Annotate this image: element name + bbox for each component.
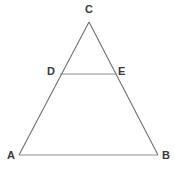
- triangle-diagram: [0, 0, 175, 175]
- vertex-label-b: B: [162, 150, 170, 161]
- vertex-label-a: A: [7, 150, 15, 161]
- vertex-label-c: C: [85, 4, 93, 15]
- vertex-label-e: E: [118, 66, 125, 77]
- geometry-figure: C D E A B: [0, 0, 175, 175]
- triangle-side-cb: [89, 22, 158, 155]
- triangle-side-ac: [19, 22, 89, 155]
- vertex-label-d: D: [47, 66, 55, 77]
